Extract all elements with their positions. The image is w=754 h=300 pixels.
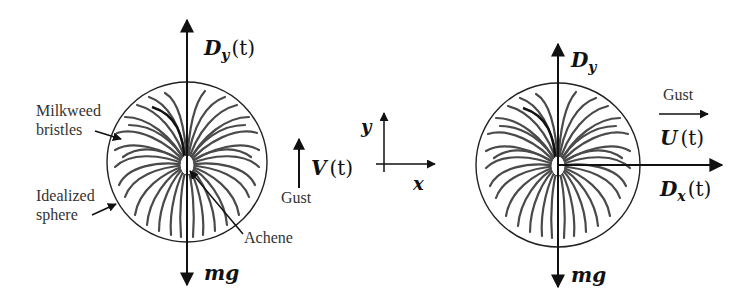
x-axis-label: x (412, 173, 424, 194)
achene-label: Achene (244, 229, 293, 246)
milkweed-bristles-label-line2: bristles (36, 121, 82, 138)
sphere-pointer-arrow (92, 204, 116, 215)
gust-u-label: U(t) (660, 126, 704, 150)
milkweed-bristles-label-line1: Milkweed (36, 102, 101, 119)
gust-v-label: V(t) (311, 156, 353, 180)
drag-y-label-left: Dy(t) (203, 36, 255, 63)
gust-label-left: Gust (281, 189, 312, 206)
y-axis-label: y (360, 116, 373, 137)
weight-label-left: mg (204, 261, 239, 285)
drag-x-label-right: Dx(t) (659, 177, 711, 204)
weight-label-right: mg (571, 263, 606, 287)
left-panel: Dy(t) mg Milkweed bristles Idealized sph… (36, 20, 353, 285)
milkweed-force-diagram: Dy(t) mg Milkweed bristles Idealized sph… (0, 0, 754, 300)
idealized-sphere-label-line1: Idealized (36, 187, 95, 204)
idealized-sphere-label-line2: sphere (36, 206, 78, 224)
gust-label-right: Gust (663, 86, 694, 103)
right-panel: Dy mg Gust U(t) Dx(t) (476, 44, 722, 287)
drag-y-label-right: Dy (570, 48, 597, 75)
axes-indicator: y x (360, 113, 435, 194)
